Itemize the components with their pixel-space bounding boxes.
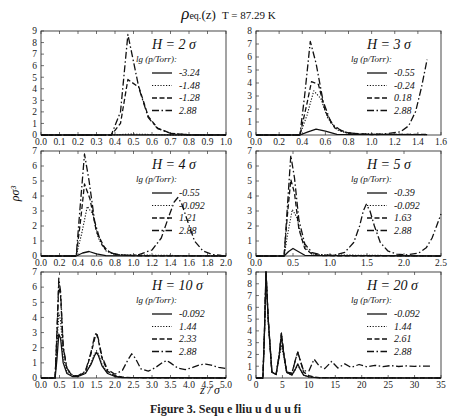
y-tick-label: 5 [247,314,252,324]
legend-entry: 0.18 [394,92,412,103]
x-tick-label: 1.2 [389,137,401,147]
x-tick-label: 30 [410,380,420,390]
legend-entry: -0.092 [394,308,420,319]
legend-entry: 2.88 [179,346,197,357]
y-tick-label: 7 [247,291,252,301]
y-tick-label: 9 [247,267,252,277]
x-tick-label: 0.2 [72,137,84,147]
x-tick-label: 1.6 [435,137,447,147]
x-tick-label: 5 [280,380,285,390]
x-tick-label: 10 [304,380,314,390]
series-line-dashdot [41,278,226,378]
x-tick-label: 0.6 [146,137,158,147]
x-tick-label: 0.2 [273,137,285,147]
y-tick-label: 1 [32,119,37,129]
x-tick-label: 2.0 [220,258,232,268]
y-tick-label: 1 [247,117,252,127]
legend-entry: -0.39 [394,187,415,198]
x-tick-label: 1.0 [324,258,336,268]
panel-label: H = 5 σ [366,157,412,172]
x-tick-label: 0.4 [72,258,84,268]
x-tick-label: 0.2 [54,258,66,268]
series-line-dotted [41,207,226,257]
y-tick-label: 8 [32,38,37,48]
y-tick-label: 2 [32,343,37,353]
y-tick-label: 0 [247,251,252,261]
x-tick-label: 1.4 [412,137,424,147]
series-line-dotted [256,210,441,257]
y-tick-label: 3 [247,206,252,216]
x-tick-label: 0.1 [54,137,66,147]
legend-entry: -3.24 [179,67,200,78]
panel-label: H = 4 σ [151,157,197,172]
x-tick-label: 0.8 [343,137,355,147]
legend-title: lg (p/Torr): [136,54,177,64]
x-tick-label: 1.0 [72,380,84,390]
y-tick-label: 7 [32,267,37,277]
legend-title: lg (p/Torr): [351,174,392,184]
legend-entry: 1.44 [179,321,197,332]
x-tick-label: 1.5 [361,258,373,268]
x-tick-label: 1.5 [91,380,103,390]
legend-entry: 1.63 [394,212,412,223]
legend-entry: -0.55 [179,187,200,198]
x-tick-label: 2.0 [398,258,410,268]
chart-panel-1: 0.00.10.20.30.40.50.60.70.80.91.00123456… [32,26,232,147]
legend-entry: -0.092 [179,200,205,211]
chart-panel-3: 0.00.20.40.60.81.01.21.41.61.82.00123456… [32,146,232,268]
legend-entry: 1.44 [394,321,412,332]
x-tick-label: 1.2 [146,258,158,268]
x-tick-label: 0.3 [91,137,103,147]
x-tick-label: 0 [254,380,259,390]
x-tick-label: 3.5 [165,380,177,390]
x-tick-label: 2.0 [109,380,121,390]
series-line-dashed [41,284,226,378]
legend-entry: 2.88 [394,225,412,236]
y-tick-label: 6 [247,52,252,62]
legend-title: lg (p/Torr): [136,295,177,305]
y-tick-label: 2 [32,107,37,117]
y-tick-label: 1 [32,358,37,368]
legend-title: lg (p/Torr): [351,54,392,64]
x-tick-label: 1.0 [220,137,232,147]
y-tick-label: 3 [32,328,37,338]
x-axis-label: z / σ [200,383,220,398]
y-tick-label: 5 [247,65,252,75]
chart-panel-5: 0.00.51.01.52.02.53.03.54.04.55.00123456… [32,267,232,390]
y-tick-label: 5 [32,298,37,308]
y-tick-label: 0 [247,373,252,383]
y-tick-label: 6 [32,161,37,171]
chart-panel-4: 0.00.51.01.52.02.501234567H = 5 σlg (p/T… [247,146,447,268]
x-tick-label: 20 [357,380,367,390]
x-tick-label: 0.8 [109,258,121,268]
legend-entry: 2.33 [179,333,197,344]
y-tick-label: 5 [32,176,37,186]
y-tick-label: 0 [32,251,37,261]
x-tick-label: 5.0 [220,380,232,390]
y-tick-label: 2 [32,221,37,231]
panel-label: H = 2 σ [151,37,197,52]
y-axis-label: ρσ³ [8,186,23,201]
y-tick-label: 3 [32,96,37,106]
x-tick-label: 0.4 [109,137,121,147]
y-tick-label: 3 [32,206,37,216]
y-tick-label: 6 [32,61,37,71]
figure-panels: 0.00.10.20.30.40.50.60.70.80.91.00123456… [0,0,457,416]
x-tick-label: 0.5 [128,137,140,147]
panel-label: H = 10 σ [151,278,204,293]
y-tick-label: 5 [32,73,37,83]
y-tick-label: 3 [247,338,252,348]
x-tick-label: 1.0 [128,258,140,268]
y-tick-label: 7 [247,39,252,49]
x-tick-label: 1.0 [366,137,378,147]
panel-label: H = 3 σ [366,37,412,52]
y-tick-label: 5 [247,176,252,186]
x-tick-label: 0.6 [319,137,331,147]
y-tick-label: 6 [32,282,37,292]
y-tick-label: 7 [247,146,252,156]
y-tick-label: 7 [32,146,37,156]
x-tick-label: 0.9 [202,137,214,147]
x-tick-label: 35 [436,380,446,390]
x-tick-label: 0.8 [183,137,195,147]
legend-entry: 2.88 [394,346,412,357]
